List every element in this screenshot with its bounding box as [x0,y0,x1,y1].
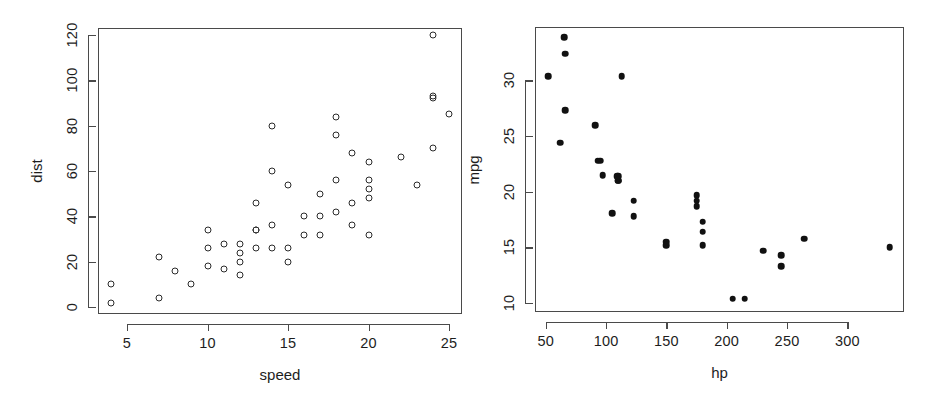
data-point [619,73,626,80]
y-tick-left [88,216,96,217]
data-point [614,173,621,180]
data-point [333,208,340,215]
y-tick-label-left: 60 [64,163,80,180]
data-point [430,31,437,38]
data-point [236,272,243,279]
data-point [333,113,340,120]
data-point [220,265,227,272]
y-tick-left [88,80,96,81]
y-tick-left [88,35,96,36]
y-tick-right [525,136,533,137]
data-point [413,181,420,188]
data-point [699,219,706,226]
data-point [236,249,243,256]
data-point [301,213,308,220]
x-tick-right [847,322,848,329]
data-point [236,258,243,265]
data-point [365,177,372,184]
data-point [562,107,569,114]
data-point [317,213,324,220]
x-tick-label-right: 200 [714,333,739,349]
data-point [562,50,569,57]
data-point [365,231,372,238]
data-point [252,199,259,206]
data-point [268,245,275,252]
data-point [204,227,211,234]
y-tick-label-right: 15 [501,239,517,256]
y-tick-left [88,126,96,127]
y-tick-right [525,303,533,304]
data-point [333,131,340,138]
y-tick-right [525,80,533,81]
data-point [285,181,292,188]
data-point [597,157,604,164]
y-tick-label-left: 0 [64,303,80,311]
data-point [365,195,372,202]
x-tick-left [369,324,370,331]
data-point [430,93,437,100]
y-tick-label-right: 30 [501,72,517,89]
data-point [252,227,259,234]
data-point [801,235,808,242]
data-point [561,34,568,41]
data-point [430,145,437,152]
data-point [663,242,670,249]
x-tick-label-right: 100 [594,333,619,349]
x-tick-label-left: 25 [441,335,458,351]
data-point [599,172,606,179]
plot-area-left [98,28,462,314]
data-point [107,281,114,288]
data-point [349,199,356,206]
data-point [742,295,749,302]
data-point [252,245,259,252]
y-tick-label-right: 25 [501,128,517,145]
data-point [729,295,736,302]
data-point [699,242,706,249]
data-point [285,258,292,265]
x-tick-left [288,324,289,331]
x-axis-title-left: speed [260,366,301,383]
data-point [693,192,700,199]
x-tick-right [546,322,547,329]
x-tick-left [127,324,128,331]
data-point [188,281,195,288]
data-point [268,168,275,175]
data-point [301,231,308,238]
y-tick-left [88,262,96,263]
data-point [609,210,616,217]
scatter-panel-speed-dist: 510152025020406080100120 speed dist [0,0,465,405]
x-tick-label-right: 50 [538,333,555,349]
data-point [172,267,179,274]
data-point [220,240,227,247]
data-point [268,222,275,229]
data-point [156,295,163,302]
data-point [557,139,564,146]
y-tick-label-right: 20 [501,184,517,201]
data-point [204,263,211,270]
x-tick-right [606,322,607,329]
data-point [545,73,552,80]
data-point [446,111,453,118]
data-point [156,254,163,261]
x-tick-label-left: 10 [199,335,216,351]
data-point [333,177,340,184]
x-tick-label-right: 250 [775,333,800,349]
data-point [317,190,324,197]
y-axis-title-right: mpg [465,155,482,184]
y-tick-label-left: 40 [64,208,80,225]
x-axis-line-right [546,322,847,323]
y-tick-right [525,247,533,248]
data-point [760,247,767,254]
x-tick-left [449,324,450,331]
data-point [349,149,356,156]
y-tick-label-right: 10 [501,295,517,312]
data-point [631,197,638,204]
y-tick-label-left: 120 [64,22,80,47]
data-point [107,299,114,306]
y-tick-right [525,192,533,193]
data-point [631,213,638,220]
y-tick-label-left: 100 [64,68,80,93]
data-point [397,154,404,161]
x-tick-label-right: 300 [835,333,860,349]
x-tick-right [727,322,728,329]
